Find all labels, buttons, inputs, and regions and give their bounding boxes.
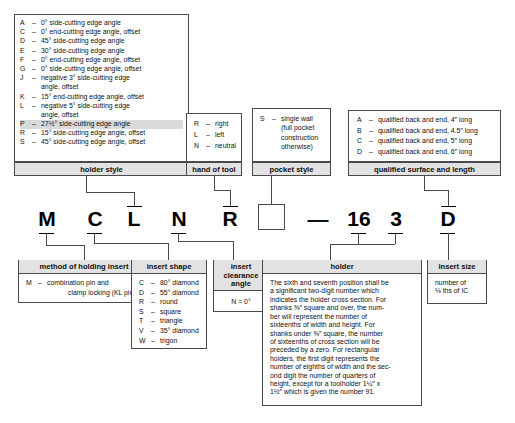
row-text: single wall (281, 115, 330, 124)
holder-style-row-continued: angle, offset (20, 83, 183, 92)
row-dash: – (206, 131, 215, 142)
qualified-surface-row: D – qualified back and end, 6″ long (357, 148, 500, 159)
holder-text-line: height, except for a toolholder 1¼″ x (270, 380, 414, 388)
connector-holder-h (330, 244, 395, 245)
insert-shape-rows: C – 80° diamond D – 55° diamond R – roun… (132, 274, 206, 346)
row-text: negative 5° side-cutting edge (41, 102, 183, 111)
connector-method-v2 (84, 245, 85, 260)
qualified-surface-rows: A – qualified back and end, 4″ long B – … (349, 111, 500, 158)
hand-of-tool-box: R – right L – left N – neutral (186, 113, 242, 162)
code-position-7: 16 (345, 208, 373, 230)
row-text: 45° side-cutting edge angle, offset (41, 138, 183, 147)
row-text: 0° end-cutting edge angle, offset (41, 56, 183, 65)
row-key: R (139, 298, 151, 308)
insert-clearance-angle-box: N = 0° (213, 291, 269, 312)
row-text: neutral (215, 142, 241, 153)
row-dash: – (32, 65, 41, 74)
row-dash: – (32, 56, 41, 65)
insert-size-caption: insert size (427, 260, 487, 274)
holder-style-row: L – negative 5° side-cutting edge (20, 102, 183, 111)
holder-style-row: K – 15° end-cutting edge angle, offset (20, 93, 183, 102)
holder-style-row: D – 45° side-cutting edge angle (20, 37, 183, 46)
code-position-6-empty-box (258, 204, 285, 230)
connector-method-v1 (46, 233, 47, 245)
connector-clearance-h (178, 241, 233, 242)
row-text: (full pocket (281, 124, 330, 133)
code-position-4: N (168, 208, 190, 230)
row-dash: – (206, 142, 215, 153)
holder-box: The sixth and seventh position shall be … (262, 274, 422, 406)
code-position-2: C (84, 208, 106, 230)
row-dash: – (32, 28, 41, 37)
row-dash: – (151, 317, 160, 327)
connector-holder-style-v2 (134, 192, 135, 206)
pocket-style-row-continued: otherwise) (260, 143, 330, 152)
connector-insert-shape-h (94, 243, 168, 244)
hand-of-tool-rows: R – right L – left N – neutral (187, 114, 241, 153)
row-text: qualified back and end, 4.5″ long (378, 127, 500, 138)
code-position-9: D (437, 208, 459, 230)
row-dash: – (32, 129, 41, 138)
row-dash: – (369, 127, 378, 138)
row-dash: – (369, 148, 378, 159)
row-key: M (26, 279, 38, 289)
insert-shape-box: C – 80° diamond D – 55° diamond R – roun… (131, 274, 207, 349)
holder-style-caption: holder style (14, 162, 189, 176)
row-text: angle, offset (41, 111, 183, 120)
holder-text-line: shanks ⅝″ square and over, the num- (270, 304, 414, 312)
code-position-3: L (123, 208, 145, 230)
row-text: trigon (160, 337, 206, 347)
row-text: qualified back and end, 5″ long (378, 137, 500, 148)
row-dash: – (151, 289, 160, 299)
row-text: 45° side-cutting edge angle (41, 37, 183, 46)
row-key: W (139, 337, 151, 347)
row-key: C (357, 137, 369, 148)
row-dash: – (151, 327, 160, 337)
holder-text-line: holders, the first digit represents the (270, 355, 414, 363)
holder-text-line: The sixth and seventh position shall be (270, 279, 414, 287)
row-dash: – (32, 37, 41, 46)
row-key: J (20, 74, 32, 83)
holder-text-line: indicates the holder cross section. For (270, 296, 414, 304)
connector-qualified-surface-h (424, 190, 448, 191)
row-dash: – (206, 120, 215, 131)
connector-holder-v3 (330, 244, 331, 260)
connector-holder-v1 (358, 233, 359, 244)
row-text: round (160, 298, 206, 308)
pocket-style-row-continued: (full pocket (260, 124, 330, 133)
row-text: otherwise) (281, 143, 330, 152)
row-dash: – (32, 93, 41, 102)
row-dash: – (151, 308, 160, 318)
row-key: B (357, 127, 369, 138)
row-key: P (20, 120, 32, 129)
row-key: C (139, 279, 151, 289)
row-text: 27½° side-cutting edge angle (41, 120, 183, 129)
row-key: D (139, 289, 151, 299)
connector-clearance-v2 (233, 241, 234, 260)
row-text: qualified back and end, 4″ long (378, 116, 500, 127)
code-position-8: 3 (385, 208, 407, 230)
holder-text-line: a significant two-digit number which (270, 287, 414, 295)
holder-style-rows: A – 0° side-cutting edge angle C – 0° en… (15, 15, 188, 150)
row-dash: – (151, 279, 160, 289)
insert-shape-row: W – trigon (139, 337, 206, 347)
connector-insert-size-v (448, 233, 449, 260)
row-text: angle, offset (41, 83, 183, 92)
pocket-style-row-continued: construction (260, 134, 330, 143)
row-text: construction (281, 134, 330, 143)
row-key: F (20, 56, 32, 65)
row-key: V (139, 327, 151, 337)
row-text: triangle (160, 317, 206, 327)
row-key: S (139, 308, 151, 318)
qualified-surface-row: A – qualified back and end, 4″ long (357, 116, 500, 127)
connector-hand-of-tool-v1 (214, 176, 215, 190)
connector-hand-of-tool-v2 (230, 190, 231, 206)
holder-style-row-continued: angle, offset (20, 111, 183, 120)
row-dash: – (272, 115, 281, 124)
holder-caption: holder (262, 260, 422, 274)
insert-size-box: number of ⅛ ths of IC (427, 274, 487, 304)
row-dash: – (32, 138, 41, 147)
row-key: A (357, 116, 369, 127)
pocket-style-caption: pocket style (252, 162, 331, 176)
row-dash: – (369, 137, 378, 148)
